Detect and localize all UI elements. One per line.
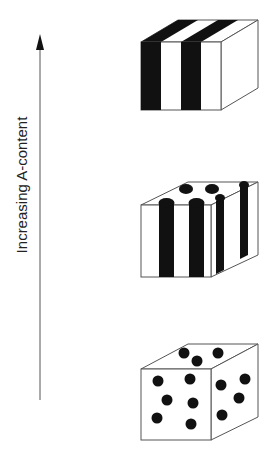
lamella-front-stripe	[181, 42, 201, 110]
sphere	[186, 419, 197, 430]
sphere-front-face	[141, 369, 211, 440]
sphere	[240, 374, 251, 385]
sphere	[234, 393, 245, 404]
composition-arrow	[36, 34, 44, 400]
cylinder-cube	[141, 181, 258, 277]
cylinder-end	[189, 198, 205, 208]
cylinder-end	[159, 198, 175, 208]
cylinder-end	[205, 184, 219, 194]
sphere	[162, 395, 173, 406]
sphere	[213, 348, 224, 359]
cylinder-front	[189, 203, 204, 277]
lamellar-cube	[141, 20, 258, 110]
cylinder-end	[239, 181, 249, 189]
sphere	[192, 356, 203, 367]
sphere	[179, 348, 190, 359]
arrow-head-icon	[36, 34, 44, 50]
sphere	[153, 376, 164, 387]
sphere	[216, 380, 227, 391]
lamella-front-stripe	[141, 42, 161, 110]
axis-label-container: Increasing A-content	[13, 117, 31, 254]
sphere-cube	[141, 344, 258, 440]
axis-label: Increasing A-content	[13, 117, 30, 254]
morphology-diagram	[0, 0, 275, 455]
cylinder-end	[179, 184, 193, 194]
cylinder-side	[240, 183, 248, 259]
sphere	[185, 374, 196, 385]
sphere	[217, 410, 228, 421]
cylinder-end	[215, 194, 225, 202]
cylinder-front	[159, 203, 174, 277]
sphere	[152, 413, 163, 424]
cylinder-side	[216, 197, 224, 274]
sphere	[188, 398, 199, 409]
